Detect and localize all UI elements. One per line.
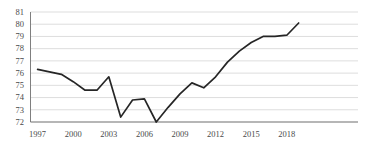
x-axis-tick-label: 1997	[21, 130, 55, 139]
y-axis-tick-label: 78	[4, 44, 24, 53]
x-axis-tick-label: 2015	[234, 130, 268, 139]
line-chart: 81807978777675747372 1997200020032006200…	[0, 0, 371, 156]
data-series	[38, 23, 299, 122]
series-line	[38, 23, 299, 122]
y-axis-tick-label: 72	[4, 118, 24, 127]
y-axis-tick-label: 76	[4, 69, 24, 78]
y-axis-tick-label: 80	[4, 20, 24, 29]
x-axis-tick-label: 2000	[56, 130, 90, 139]
x-axis-tick-label: 2003	[92, 130, 126, 139]
y-axis-tick-label: 75	[4, 81, 24, 90]
y-axis-tick-label: 73	[4, 106, 24, 115]
x-axis-tick-label: 2018	[270, 130, 304, 139]
y-axis-tick-label: 77	[4, 57, 24, 66]
x-axis-tick-label: 2012	[199, 130, 233, 139]
y-axis-tick-label: 79	[4, 32, 24, 41]
chart-axes	[31, 12, 359, 122]
y-axis-tick-label: 74	[4, 93, 24, 102]
x-axis-tick-label: 2006	[127, 130, 161, 139]
gridlines	[31, 12, 359, 110]
x-axis-tick-label: 2009	[163, 130, 197, 139]
y-axis-tick-label: 81	[4, 8, 24, 17]
